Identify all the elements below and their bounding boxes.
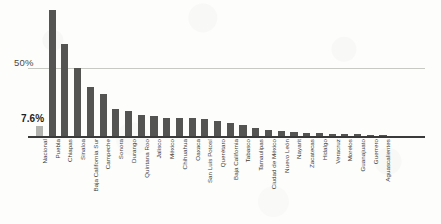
x-axis-label: Chihuahua xyxy=(182,139,188,169)
bar xyxy=(74,68,81,136)
bar xyxy=(189,118,196,136)
bar xyxy=(239,125,246,136)
bar xyxy=(87,87,94,136)
bar xyxy=(138,115,145,136)
x-axis-label: Veracruz xyxy=(335,139,341,164)
x-axis-label: Campeche xyxy=(105,139,111,169)
bar xyxy=(227,123,234,136)
x-axis-label: Nayarit xyxy=(296,139,302,159)
x-axis-label: San Luis Potosí xyxy=(207,139,213,183)
x-axis-label: Tamaulipas xyxy=(258,139,264,171)
x-axis-label: Guanajuato xyxy=(360,139,366,172)
x-axis-label: Baja California Sur xyxy=(93,139,99,192)
bar xyxy=(214,121,221,136)
plot-area xyxy=(28,6,425,136)
bar xyxy=(112,109,119,136)
bar xyxy=(49,10,56,136)
x-axis-label: Aguascalientes xyxy=(385,139,391,182)
x-axis-label: Nacional xyxy=(42,139,48,163)
x-axis-label: Durango xyxy=(131,139,137,163)
x-axis-label: Puebla xyxy=(55,139,61,159)
x-axis-label: Morelos xyxy=(347,139,353,161)
x-axis-line xyxy=(28,136,425,138)
x-axis-label: Zacatecas xyxy=(309,139,315,168)
bar xyxy=(100,94,107,136)
x-axis-label: Baja California xyxy=(233,139,239,180)
x-axis-label: Chiapas xyxy=(67,139,73,162)
bar xyxy=(150,116,157,136)
bar xyxy=(252,128,259,136)
bar-chart: 50% 7.6% NacionalPueblaChiapasSinaloaBaj… xyxy=(0,0,441,224)
x-axis-label: Jalisco xyxy=(156,139,162,158)
x-axis-label: México xyxy=(169,139,175,159)
x-axis-label: Guerrero xyxy=(373,139,379,164)
bar xyxy=(176,118,183,136)
bar xyxy=(61,44,68,136)
bar xyxy=(125,111,132,136)
x-axis-label: Querétaro xyxy=(220,139,226,167)
x-axis-label: Hidalgo xyxy=(322,139,328,160)
bar-series xyxy=(28,6,425,136)
x-axis-label: Tabasco xyxy=(245,139,251,162)
x-axis-label: Quintana Roo xyxy=(144,139,150,178)
bar xyxy=(36,126,43,136)
x-axis-label: Nuevo León xyxy=(284,139,290,173)
x-axis-label: Oaxaca xyxy=(195,139,201,161)
bar xyxy=(163,118,170,136)
x-axis-label: Sinaloa xyxy=(80,139,86,160)
x-axis-category-labels: NacionalPueblaChiapasSinaloaBaja Califor… xyxy=(28,139,425,224)
bar xyxy=(201,119,208,136)
x-axis-label: Ciudad de México xyxy=(271,139,277,189)
x-axis-label: Sonora xyxy=(118,139,124,159)
